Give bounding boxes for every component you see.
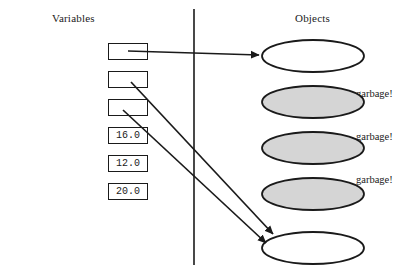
reference-arrows	[123, 51, 273, 243]
object-ellipse-live[interactable]	[262, 40, 364, 72]
memory-diagram: Variables Objects firstCitycurrentCityne…	[0, 0, 420, 278]
object-ellipse-garbage[interactable]	[262, 178, 364, 210]
diagram-vector-layer	[0, 0, 420, 278]
object-ellipses	[262, 40, 364, 264]
object-ellipse-live[interactable]	[262, 232, 364, 264]
reference-arrow	[131, 82, 273, 234]
object-ellipse-garbage[interactable]	[262, 132, 364, 164]
object-ellipse-garbage[interactable]	[262, 86, 364, 118]
